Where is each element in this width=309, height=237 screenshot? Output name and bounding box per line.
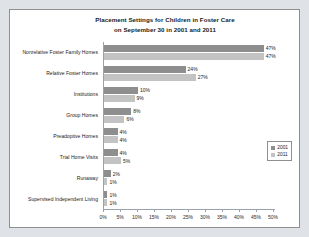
chart-title-line-2: on September 30 in 2001 and 2011 [40, 25, 290, 35]
bar-pair: 47%47% [103, 44, 275, 61]
x-axis-tick-mark [273, 209, 274, 212]
category-label: Preadoptive Homes [53, 133, 98, 139]
bar-value-label: 1% [109, 192, 116, 198]
x-axis-tick-mark [137, 209, 138, 212]
x-axis-tick-label: 10% [132, 214, 142, 220]
bar-value-label: 5% [123, 158, 130, 164]
x-axis-tick-label: 45% [251, 214, 261, 220]
legend-label: 2011 [277, 152, 287, 157]
chart-card: Placement Settings for Children in Foste… [9, 9, 300, 228]
bar-2011: 6% [104, 116, 124, 123]
plot-area: Nonrelative Foster Family Homes47%47%Rel… [103, 42, 275, 209]
bar-value-label: 10% [140, 87, 150, 93]
bar-2011: 9% [104, 95, 135, 102]
x-axis-tick-label: 5% [116, 214, 123, 220]
bar-pair: 1%1% [103, 190, 275, 207]
bar-pair: 4%5% [103, 148, 275, 165]
category-label: Relative Foster Homes [46, 70, 98, 76]
chart-legend: 20012011 [267, 141, 292, 161]
bar-2001: 8% [104, 108, 131, 115]
bar-2011: 5% [104, 157, 121, 164]
bar-value-label: 27% [198, 74, 208, 80]
x-axis-line [103, 209, 275, 210]
x-axis-tick-mark [239, 209, 240, 212]
bar-value-label: 47% [266, 53, 276, 59]
x-axis-tick-mark [171, 209, 172, 212]
x-axis-tick-mark [256, 209, 257, 212]
x-axis-tick-label: 50% [268, 214, 278, 220]
bar-value-label: 8% [133, 108, 140, 114]
category-label: Nonrelative Foster Family Homes [22, 49, 98, 55]
chart-title-line-1: Placement Settings for Children in Foste… [40, 15, 290, 25]
x-axis-tick-label: 25% [183, 214, 193, 220]
page-background: Placement Settings for Children in Foste… [0, 0, 309, 237]
category-group: Institutions10%9% [103, 84, 275, 105]
x-axis-tick-mark [154, 209, 155, 212]
x-axis-tick-mark [120, 209, 121, 212]
legend-item-2001[interactable]: 2001 [271, 144, 288, 151]
bar-2011: 4% [104, 136, 118, 143]
bar-pair: 4%4% [103, 127, 275, 144]
x-axis-tick-mark [103, 209, 104, 212]
bar-value-label: 4% [120, 150, 127, 156]
bar-value-label: 4% [120, 129, 127, 135]
bar-2001: 2% [104, 170, 111, 177]
legend-label: 2001 [277, 145, 288, 150]
category-label: Runaway [77, 175, 98, 181]
category-group: Supervised Independent Living1%1% [103, 188, 275, 209]
bar-2011: 27% [104, 74, 196, 81]
x-axis-tick-label: 30% [200, 214, 210, 220]
bar-2011: 47% [104, 53, 264, 60]
bar-value-label: 24% [188, 66, 198, 72]
legend-swatch-icon [271, 153, 275, 157]
bar-value-label: 47% [266, 45, 276, 51]
bar-pair: 8%6% [103, 107, 275, 124]
category-group: Runaway2%1% [103, 167, 275, 188]
bar-pair: 2%1% [103, 169, 275, 186]
x-axis-tick-mark [188, 209, 189, 212]
bar-2011: 1% [104, 178, 107, 185]
legend-swatch-icon [271, 146, 275, 150]
category-group: Relative Foster Homes24%27% [103, 63, 275, 84]
bar-2001: 47% [104, 45, 264, 52]
bar-value-label: 6% [126, 116, 133, 122]
bar-2001: 4% [104, 128, 118, 135]
bar-value-label: 1% [109, 179, 116, 185]
category-group: Trial Home Visits4%5% [103, 146, 275, 167]
category-group: Group Homes8%6% [103, 105, 275, 126]
x-axis-tick-label: 20% [166, 214, 176, 220]
x-axis-tick-label: 35% [217, 214, 227, 220]
chart-title: Placement Settings for Children in Foste… [40, 15, 290, 34]
category-label: Supervised Independent Living [28, 196, 98, 202]
bar-pair: 24%27% [103, 65, 275, 82]
bar-value-label: 4% [120, 137, 127, 143]
x-axis-tick-label: 40% [234, 214, 244, 220]
x-axis-tick-label: 15% [149, 214, 159, 220]
bar-value-label: 9% [137, 95, 144, 101]
category-label: Group Homes [66, 112, 98, 118]
category-group: Preadoptive Homes4%4% [103, 126, 275, 147]
x-axis-tick-label: 0% [99, 214, 106, 220]
bar-2011: 1% [104, 199, 107, 206]
bar-value-label: 2% [113, 171, 120, 177]
bar-2001: 1% [104, 191, 107, 198]
x-axis-tick-mark [222, 209, 223, 212]
bar-value-label: 1% [109, 200, 116, 206]
legend-item-2011[interactable]: 2011 [271, 151, 288, 158]
category-label: Institutions [74, 91, 98, 97]
bar-pair: 10%9% [103, 86, 275, 103]
category-label: Trial Home Visits [60, 154, 98, 160]
x-axis-tick-mark [205, 209, 206, 212]
bar-2001: 24% [104, 66, 186, 73]
bar-2001: 4% [104, 149, 118, 156]
category-group: Nonrelative Foster Family Homes47%47% [103, 42, 275, 63]
bar-2001: 10% [104, 87, 138, 94]
